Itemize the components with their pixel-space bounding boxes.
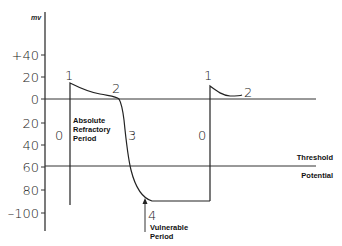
tick-label: +40 (12, 48, 39, 63)
tick-label: –100 (8, 206, 39, 221)
phase-2-label: 2 (112, 81, 120, 96)
tick-label: 0 (31, 92, 39, 107)
threshold-label: Threshold (297, 153, 334, 162)
action-potential-trace-1 (70, 83, 210, 205)
svg-text:Absolute: Absolute (73, 116, 105, 125)
tick-label: 60 (22, 160, 39, 175)
absolute-refractory-annotation: Absolute Refractory Period (73, 116, 111, 143)
phase-1-label-second: 1 (204, 68, 212, 83)
tick-label: 80 (22, 183, 39, 198)
svg-text:Period: Period (73, 134, 97, 143)
y-tick-labels: +40 20 0 20 40 60 80 –100 (8, 48, 39, 221)
tick-label: 20 (22, 116, 39, 131)
phase-3-label: 3 (128, 128, 136, 143)
phase-4-label: 4 (148, 208, 156, 223)
phase-2-label-second: 2 (244, 85, 252, 100)
svg-text:Vulnerable: Vulnerable (150, 223, 188, 232)
phase-0-label: 0 (55, 128, 63, 143)
tick-label: 40 (22, 138, 39, 153)
action-potential-diagram: mv +40 20 0 20 40 60 80 –100 1 2 0 3 4 1… (0, 0, 342, 246)
phase-0-label-second: 0 (198, 128, 206, 143)
action-potential-trace-2 (210, 86, 242, 201)
phase-1-label: 1 (65, 68, 73, 83)
svg-text:Refractory: Refractory (73, 125, 111, 134)
unit-label: mv (31, 14, 42, 21)
tick-label: 20 (22, 70, 39, 85)
potential-label: Potential (301, 171, 333, 180)
svg-text:Period: Period (150, 232, 174, 241)
